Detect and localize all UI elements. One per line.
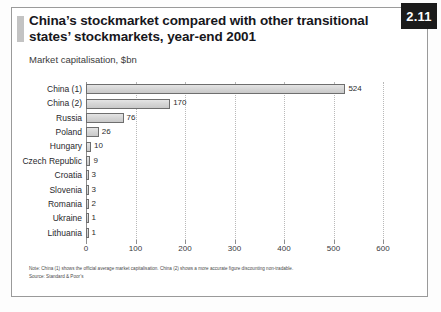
bar-row: China (1)524	[86, 82, 383, 96]
category-label: China (1)	[47, 82, 82, 96]
bar-value-label: 1	[92, 226, 96, 240]
bar	[86, 228, 89, 238]
x-tick-label-600: 600	[376, 244, 389, 253]
bar-row: Lithuania1	[86, 226, 383, 240]
category-label: Croatia	[55, 168, 82, 182]
bar	[86, 170, 89, 180]
category-label: China (2)	[47, 96, 82, 110]
bar-value-label: 26	[102, 125, 111, 139]
bar	[86, 185, 89, 195]
bar-value-label: 524	[348, 82, 361, 96]
bar	[86, 84, 345, 94]
bar-value-label: 170	[173, 96, 186, 110]
figure-title: China’s stockmarket compared with other …	[29, 13, 379, 45]
bar-row: Hungary10	[86, 139, 383, 153]
bar-row: Ukraine1	[86, 211, 383, 225]
figure-page: 2.11 China’s stockmarket compared with o…	[0, 0, 441, 312]
bar-row: Czech Republic9	[86, 154, 383, 168]
bar-value-label: 3	[92, 183, 96, 197]
bar	[86, 213, 89, 223]
bar	[86, 99, 170, 109]
bar	[86, 199, 89, 209]
title-accent-bar	[17, 16, 24, 42]
bar-value-label: 10	[94, 139, 103, 153]
bar-row: Russia76	[86, 111, 383, 125]
bar-value-label: 1	[92, 211, 96, 225]
category-label: Hungary	[50, 139, 82, 153]
category-label: Ukraine	[53, 211, 82, 225]
figure-source: Source: Standard & Poor’s	[29, 274, 389, 281]
figure-number-badge: 2.11	[401, 3, 437, 29]
bar-row: Croatia3	[86, 168, 383, 182]
chart-plot-area: China (1)524China (2)170Russia76Poland26…	[86, 82, 383, 240]
bar	[86, 142, 91, 152]
bar-value-label: 9	[93, 154, 97, 168]
bar	[86, 127, 99, 137]
bar-row: Romania2	[86, 197, 383, 211]
x-tick-label-300: 300	[228, 244, 241, 253]
bar-value-label: 76	[127, 111, 136, 125]
category-label: Romania	[48, 197, 82, 211]
category-label: Czech Republic	[22, 154, 82, 168]
bar-row: China (2)170	[86, 96, 383, 110]
figure-note: Note: China (1) shows the official avera…	[29, 266, 389, 273]
bar-value-label: 2	[92, 197, 96, 211]
bar-value-label: 3	[92, 168, 96, 182]
category-label: Poland	[56, 125, 82, 139]
x-tick-label-400: 400	[277, 244, 290, 253]
category-label: Russia	[56, 111, 82, 125]
x-tick-label-0: 0	[84, 244, 88, 253]
category-label: Slovenia	[49, 183, 82, 197]
bar	[86, 156, 90, 166]
gridline-600	[383, 82, 384, 240]
bar-row: Slovenia3	[86, 183, 383, 197]
figure-subtitle: Market capitalisation, $bn	[29, 54, 137, 65]
bar-row: Poland26	[86, 125, 383, 139]
x-tick-label-200: 200	[178, 244, 191, 253]
bar	[86, 113, 124, 123]
x-tick-label-100: 100	[129, 244, 142, 253]
x-tick-label-500: 500	[327, 244, 340, 253]
category-label: Lithuania	[47, 226, 82, 240]
